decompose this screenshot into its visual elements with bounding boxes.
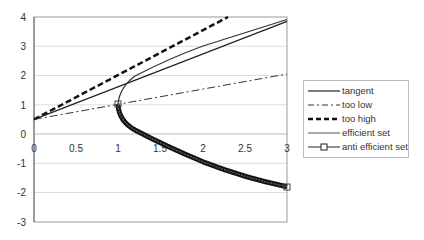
svg-text:-3: -3 xyxy=(17,217,26,228)
y-tick-labels: 4 3 2 1 0 -1 -2 -3 xyxy=(17,12,26,228)
legend-item-anti-efficient-set: anti efficient set xyxy=(304,140,408,154)
legend: tangent too low too high efficient set a… xyxy=(303,80,409,158)
gridlines xyxy=(34,46,287,192)
plot-border xyxy=(34,17,287,222)
legend-line-dashdot-icon xyxy=(308,100,340,110)
svg-text:4: 4 xyxy=(20,12,26,23)
legend-item-tangent: tangent xyxy=(304,84,408,98)
series-too-low xyxy=(34,74,287,119)
svg-text:2: 2 xyxy=(20,70,26,81)
legend-line-solid-icon xyxy=(308,86,340,96)
svg-text:2.5: 2.5 xyxy=(238,143,252,154)
svg-text:0.5: 0.5 xyxy=(69,143,83,154)
svg-text:3: 3 xyxy=(20,41,26,52)
svg-text:0: 0 xyxy=(31,143,37,154)
series-efficient-set xyxy=(118,20,287,105)
svg-text:-2: -2 xyxy=(17,187,26,198)
series-too-high xyxy=(34,17,228,119)
svg-text:0: 0 xyxy=(20,129,26,140)
svg-text:-1: -1 xyxy=(17,158,26,169)
legend-item-too-high: too high xyxy=(304,112,408,126)
legend-line-solid-icon xyxy=(308,128,340,138)
legend-item-efficient-set: efficient set xyxy=(304,126,408,140)
legend-line-dashed-icon xyxy=(308,114,340,124)
legend-line-square-marker-icon xyxy=(308,142,340,152)
svg-text:2: 2 xyxy=(200,143,206,154)
svg-text:1: 1 xyxy=(115,143,121,154)
legend-item-too-low: too low xyxy=(304,98,408,112)
svg-text:3: 3 xyxy=(284,143,290,154)
svg-text:1: 1 xyxy=(20,100,26,111)
